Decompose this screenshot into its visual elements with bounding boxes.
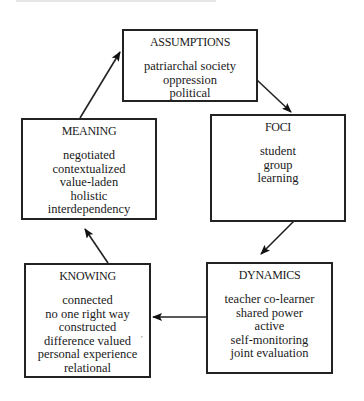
list-item: group (212, 159, 344, 173)
list-item: constructed (26, 321, 149, 335)
list-item: active (208, 320, 331, 334)
scan-edge-line (16, 0, 216, 2)
list-item: personal experience (26, 348, 149, 362)
stray-mark: ' (141, 334, 143, 344)
list-item: self-monitoring (208, 334, 331, 348)
meaning-title: MEANING (23, 124, 155, 139)
foci-box: FOCI student group learning (210, 114, 346, 222)
assumptions-items: patriarchal society oppression political (124, 60, 256, 101)
list-item: difference valued (26, 335, 149, 349)
dynamics-title: DYNAMICS (208, 268, 331, 283)
list-item: negotiated (23, 149, 155, 163)
dynamics-items: teacher co-learner shared power active s… (208, 293, 331, 361)
list-item: connected (26, 294, 149, 308)
list-item: holistic (23, 190, 155, 204)
list-item: student (212, 145, 344, 159)
foci-items: student group learning (212, 145, 344, 186)
knowing-items: connected no one right way constructed d… (26, 294, 149, 376)
list-item: contextualized (23, 163, 155, 177)
arrow-assumptions-to-foci (257, 80, 291, 112)
list-item: shared power (208, 307, 331, 321)
arrow-knowing-to-meaning (85, 229, 108, 263)
list-item: relational (26, 362, 149, 376)
arrow-foci-to-dynamics (261, 221, 294, 254)
list-item: no one right way (26, 308, 149, 322)
list-item: patriarchal society (124, 60, 256, 74)
list-item: political (124, 87, 256, 101)
list-item: learning (212, 172, 344, 186)
foci-title: FOCI (212, 120, 344, 135)
meaning-items: negotiated contextualized value-laden ho… (23, 149, 155, 217)
list-item: oppression (124, 74, 256, 88)
list-item: value-laden (23, 176, 155, 190)
dynamics-box: DYNAMICS teacher co-learner shared power… (206, 262, 333, 374)
list-item: interdependency (23, 203, 155, 217)
assumptions-title: ASSUMPTIONS (124, 35, 256, 50)
assumptions-box: ASSUMPTIONS patriarchal society oppressi… (122, 29, 258, 102)
arrow-meaning-to-assumptions (80, 52, 120, 118)
list-item: joint evaluation (208, 347, 331, 361)
meaning-box: MEANING negotiated contextualized value-… (21, 118, 157, 220)
knowing-box: KNOWING connected no one right way const… (24, 263, 151, 378)
knowing-title: KNOWING (26, 269, 149, 284)
list-item: teacher co-learner (208, 293, 331, 307)
